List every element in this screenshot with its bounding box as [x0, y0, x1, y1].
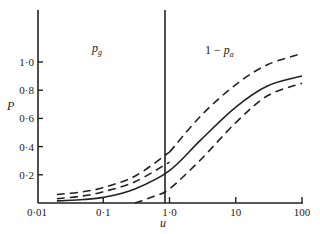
x-tick-label: 0·01	[27, 206, 47, 218]
curves	[57, 54, 302, 204]
x-tick-label: 100	[294, 206, 311, 218]
chart: 0·20·40·60·81·0 0·010·11·010100 P u pg 1…	[0, 0, 320, 234]
dashed-curve	[135, 83, 302, 203]
y-tick-label: 0·2	[19, 169, 34, 181]
y-axis-label: P	[6, 99, 15, 113]
y-tick-label: 0·4	[19, 141, 34, 153]
x-tick-label: 0·1	[96, 206, 111, 218]
y-tick-label: 0·8	[19, 84, 34, 96]
axes	[38, 10, 303, 203]
y-tick-label: 1·0	[19, 56, 34, 68]
region-label-1-pa: 1 − pa	[205, 43, 234, 59]
y-ticks: 0·20·40·60·81·0	[19, 56, 43, 181]
y-tick-label: 0·6	[19, 112, 34, 124]
x-tick-label: 10	[230, 206, 242, 218]
x-axis-label: u	[160, 216, 166, 230]
dashed-curve	[57, 152, 170, 194]
dashed-curve	[170, 54, 303, 153]
solid-curve	[57, 76, 302, 201]
region-label-pg: pg	[91, 41, 102, 57]
